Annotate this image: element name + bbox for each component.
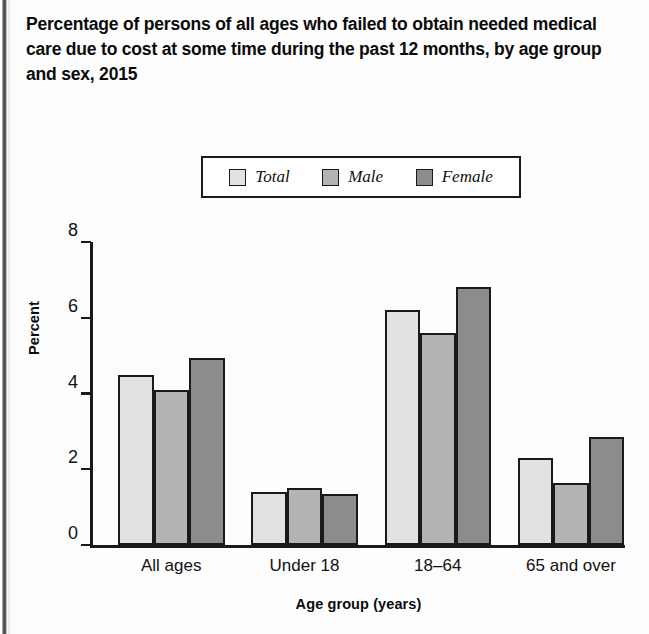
y-axis-tick-labels: 02468 xyxy=(48,230,78,557)
figure-page: Percentage of persons of all ages who fa… xyxy=(0,0,649,634)
y-tick-4 xyxy=(81,392,91,394)
y-tick-label-4: 4 xyxy=(68,372,78,393)
x-axis-category-labels: All agesUnder 1818–6465 and over xyxy=(92,556,625,580)
x-label-1: Under 18 xyxy=(270,556,340,576)
bar-female-1 xyxy=(322,494,358,545)
bar-female-2 xyxy=(456,287,492,545)
page-title: Percentage of persons of all ages who fa… xyxy=(26,12,626,87)
legend-swatch-female xyxy=(416,169,433,186)
legend-label-male: Male xyxy=(348,167,383,187)
bar-male-2 xyxy=(420,333,456,545)
bar-total-3 xyxy=(518,458,554,545)
legend-item-total: Total xyxy=(229,167,289,187)
y-tick-0 xyxy=(81,544,91,546)
legend-swatch-male xyxy=(322,169,339,186)
bar-total-1 xyxy=(251,492,287,545)
y-tick-label-8: 8 xyxy=(68,220,78,241)
legend-item-male: Male xyxy=(322,167,383,187)
y-tick-6 xyxy=(81,317,91,319)
y-tick-label-6: 6 xyxy=(68,296,78,317)
x-label-0: All ages xyxy=(141,556,201,576)
x-axis-line xyxy=(90,545,625,548)
page-edge-artifact xyxy=(2,0,7,634)
legend-label-female: Female xyxy=(442,167,493,187)
bar-total-0 xyxy=(118,375,154,545)
y-tick-label-0: 0 xyxy=(68,523,78,544)
page-edge-artifact-secondary xyxy=(8,0,10,634)
legend-label-total: Total xyxy=(255,167,289,187)
bar-series-container xyxy=(92,242,625,545)
bar-total-2 xyxy=(385,310,421,545)
legend-item-female: Female xyxy=(416,167,493,187)
bar-male-3 xyxy=(553,483,589,545)
x-label-2: 18–64 xyxy=(414,556,461,576)
y-tick-label-2: 2 xyxy=(68,447,78,468)
y-axis-title: Percent xyxy=(26,301,42,355)
x-label-3: 65 and over xyxy=(526,556,616,576)
plot-area: 02468 xyxy=(92,242,625,545)
y-tick-2 xyxy=(81,468,91,470)
x-axis-title: Age group (years) xyxy=(92,596,625,612)
chart-legend: Total Male Female xyxy=(201,156,521,198)
bar-male-1 xyxy=(287,488,323,545)
y-tick-8 xyxy=(81,241,91,243)
legend-swatch-total xyxy=(229,169,246,186)
bar-female-0 xyxy=(189,358,225,545)
bar-male-0 xyxy=(154,390,190,545)
bar-female-3 xyxy=(589,437,625,545)
